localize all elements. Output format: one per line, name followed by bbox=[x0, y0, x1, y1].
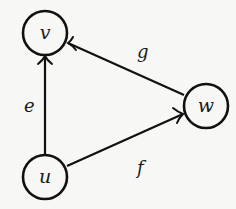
node-w: w bbox=[184, 84, 228, 128]
node-v: v bbox=[23, 11, 67, 55]
node-u: u bbox=[23, 155, 67, 199]
node-label-v: v bbox=[40, 21, 51, 43]
edge-label-g: g bbox=[137, 41, 149, 62]
edge-g: g bbox=[68, 37, 184, 95]
edge-f: f bbox=[67, 108, 183, 178]
node-label-u: u bbox=[39, 165, 51, 187]
edge-label-f: f bbox=[135, 157, 147, 178]
node-label-w: w bbox=[198, 94, 214, 116]
edge-g-line bbox=[68, 43, 184, 95]
edge-f-line bbox=[67, 114, 183, 166]
edge-e: e bbox=[24, 56, 52, 155]
edge-label-e: e bbox=[24, 95, 35, 116]
arrowhead-icon bbox=[68, 37, 76, 50]
graph-canvas: e f g v w u bbox=[0, 0, 236, 209]
